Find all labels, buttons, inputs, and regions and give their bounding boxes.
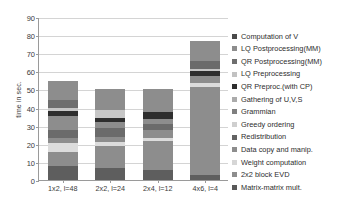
legend-swatch-icon	[232, 97, 237, 102]
legend-item-label: Redistribution	[241, 133, 286, 140]
legend-swatch-icon	[232, 46, 237, 51]
bar-segment[interactable]	[95, 146, 125, 168]
legend-item-label: Data copy and manip.	[241, 146, 313, 153]
bar-segment[interactable]	[48, 81, 78, 101]
bar-segment[interactable]	[190, 83, 220, 87]
bar-segment[interactable]	[48, 116, 78, 130]
bar-segment[interactable]	[48, 152, 78, 166]
bar-segment[interactable]	[190, 41, 220, 62]
bar-segment[interactable]	[143, 130, 173, 138]
bar-segment[interactable]	[143, 141, 173, 170]
legend-item[interactable]: LQ Preprocessing	[232, 68, 344, 81]
bar-segment[interactable]	[143, 124, 173, 130]
bar-segment[interactable]	[95, 110, 125, 118]
legend-item[interactable]: Redistribution	[232, 131, 344, 144]
bar-segment[interactable]	[48, 130, 78, 138]
bar-segment[interactable]	[48, 108, 78, 111]
legend-item-label: Matrix-matrix mult.	[241, 184, 302, 191]
legend-item-label: LQ Postprocessing(MM)	[241, 45, 321, 52]
legend-item-label: LQ Preprocessing	[241, 70, 300, 77]
y-axis-tick-label: 50	[27, 86, 35, 95]
x-axis-tick-label: 1x2, l=48	[48, 184, 77, 193]
legend-item-label: Computation of V	[241, 33, 298, 40]
x-axis-tick-mark	[110, 180, 111, 183]
y-axis-tick-label: 10	[27, 158, 35, 167]
bar-segment[interactable]	[143, 112, 173, 119]
legend-swatch-icon	[232, 172, 237, 177]
x-axis-tick-mark	[205, 180, 206, 183]
bar-segment[interactable]	[190, 61, 220, 68]
bar-stack	[48, 81, 78, 180]
bar-segment[interactable]	[95, 122, 125, 129]
legend-item[interactable]: Data copy and manip.	[232, 143, 344, 156]
legend-item-label: Weight computation	[241, 159, 306, 166]
legend-swatch-icon	[232, 122, 237, 127]
legend-swatch-icon	[232, 34, 237, 39]
bar-segment[interactable]	[48, 143, 78, 152]
bar-segment[interactable]	[48, 138, 78, 143]
x-axis-tick-label: 4x6, l=4	[193, 184, 218, 193]
legend-swatch-icon	[232, 135, 237, 140]
bar-column[interactable]: 4x6, l=4	[190, 17, 220, 180]
bar-segment[interactable]	[48, 166, 78, 180]
bar-segment[interactable]	[190, 87, 220, 176]
bar-column[interactable]: 1x2, l=48	[48, 17, 78, 180]
legend-item-label: Greedy ordering	[241, 121, 294, 128]
legend-swatch-icon	[232, 84, 237, 89]
y-axis-tick-label: 30	[27, 122, 35, 131]
bar-segment[interactable]	[95, 168, 125, 180]
legend-item[interactable]: Grammian	[232, 106, 344, 119]
x-axis-tick-label: 2x4, l=12	[143, 184, 172, 193]
legend-item[interactable]: QR Preproc.(with CP)	[232, 80, 344, 93]
bar-segment[interactable]	[190, 76, 220, 83]
bar-segment[interactable]	[143, 138, 173, 141]
legend-item-label: 2x2 block EVD	[241, 171, 289, 178]
y-axis-tick-mark	[36, 181, 39, 182]
gridline	[39, 181, 228, 182]
bars-layer: 1x2, l=482x2, l=242x4, l=124x6, l=4	[39, 18, 228, 180]
bar-segment[interactable]	[48, 111, 78, 116]
legend-swatch-icon	[232, 147, 237, 152]
legend-item[interactable]: Weight computation	[232, 156, 344, 169]
bar-stack	[95, 89, 125, 180]
legend-item[interactable]: Greedy ordering	[232, 118, 344, 131]
chart-legend: Computation of VLQ Postprocessing(MM)QR …	[232, 30, 344, 194]
legend-swatch-icon	[232, 185, 237, 190]
bar-stack	[190, 41, 220, 180]
bar-column[interactable]: 2x4, l=12	[143, 17, 173, 180]
y-axis-tick-label: 90	[27, 14, 35, 23]
x-axis-tick-label: 2x2, l=24	[96, 184, 125, 193]
bar-segment[interactable]	[190, 71, 220, 76]
legend-item[interactable]: LQ Postprocessing(MM)	[232, 43, 344, 56]
stacked-bar-chart: time in sec. 0102030405060708090 1x2, l=…	[0, 0, 345, 206]
legend-swatch-icon	[232, 160, 237, 165]
legend-item[interactable]: Gathering of U,V,S	[232, 93, 344, 106]
legend-item[interactable]: Computation of V	[232, 30, 344, 43]
bar-segment[interactable]	[190, 69, 220, 72]
x-axis-tick-mark	[158, 180, 159, 183]
legend-item[interactable]: 2x2 block EVD	[232, 169, 344, 182]
bar-segment[interactable]	[95, 89, 125, 110]
legend-swatch-icon	[232, 72, 237, 77]
bar-segment[interactable]	[143, 170, 173, 180]
legend-item-label: Gathering of U,V,S	[241, 96, 302, 103]
bar-segment[interactable]	[95, 118, 125, 121]
plot-area: 0102030405060708090 1x2, l=482x2, l=242x…	[38, 18, 228, 181]
legend-item[interactable]: QR Postprocessing(MM)	[232, 55, 344, 68]
x-axis-tick-mark	[63, 180, 64, 183]
y-axis-tick-label: 70	[27, 50, 35, 59]
legend-item[interactable]: Matrix-matrix mult.	[232, 181, 344, 194]
y-axis-title: time in sec.	[15, 65, 22, 135]
legend-swatch-icon	[232, 109, 237, 114]
bar-segment[interactable]	[143, 89, 173, 112]
bar-segment[interactable]	[143, 119, 173, 124]
bar-segment[interactable]	[48, 100, 78, 108]
bar-segment[interactable]	[95, 137, 125, 142]
y-axis-tick-label: 20	[27, 140, 35, 149]
bar-stack	[143, 89, 173, 180]
bar-segment[interactable]	[95, 128, 125, 137]
legend-item-label: QR Postprocessing(MM)	[241, 58, 322, 65]
legend-item-label: Grammian	[241, 108, 276, 115]
bar-segment[interactable]	[95, 142, 125, 146]
bar-column[interactable]: 2x2, l=24	[95, 17, 125, 180]
